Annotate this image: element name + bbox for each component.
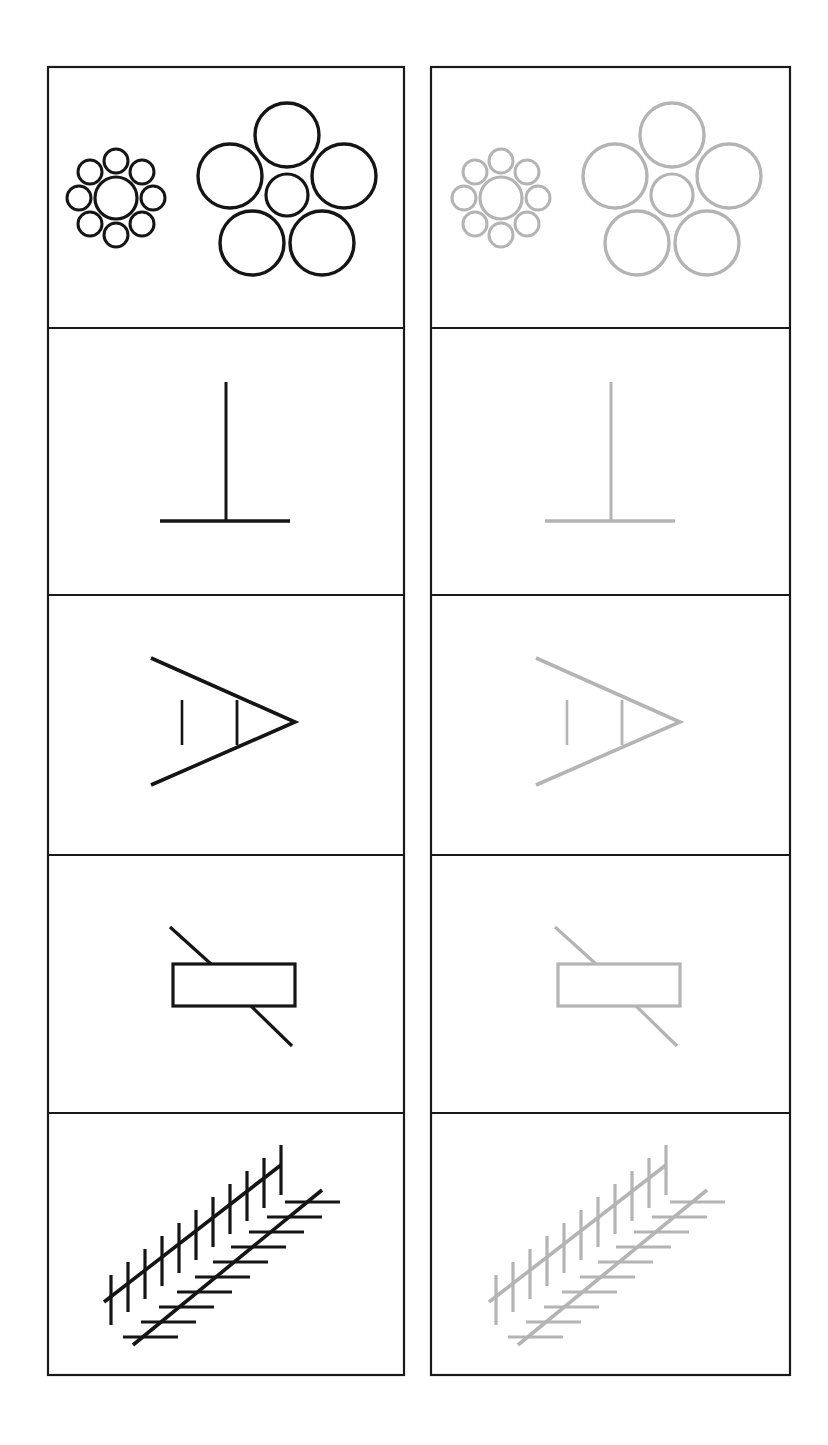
figure-page xyxy=(0,0,828,1445)
illusion-figure-svg xyxy=(0,0,828,1445)
